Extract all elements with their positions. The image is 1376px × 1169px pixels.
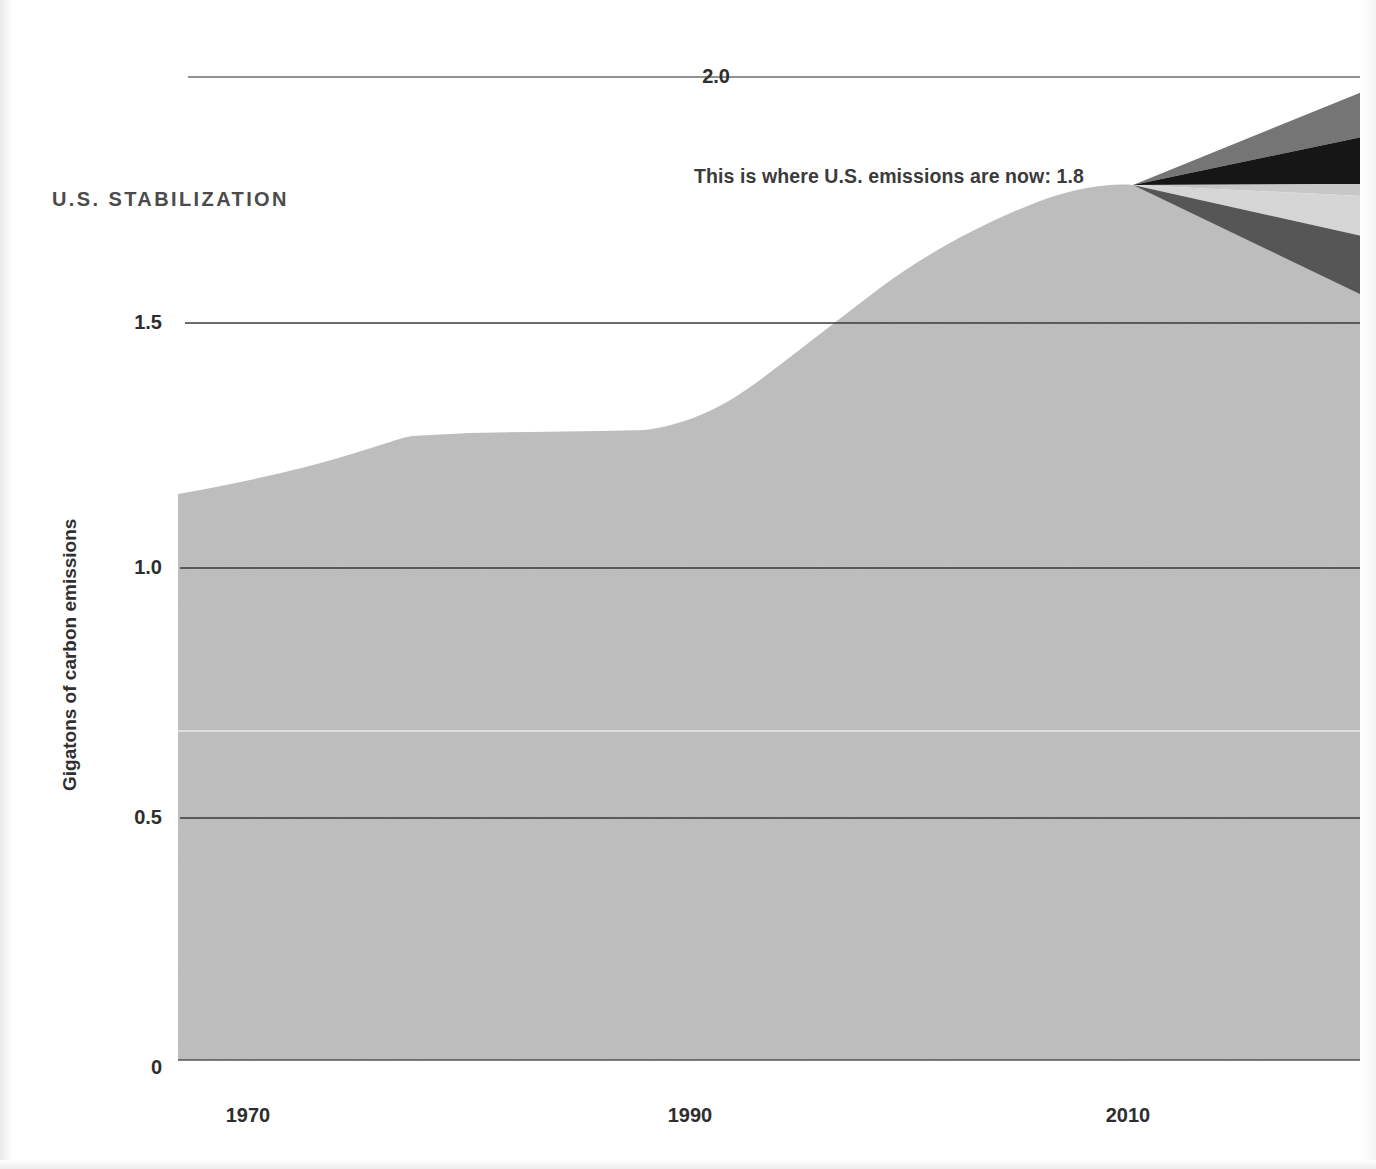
current-emissions-annotation: This is where U.S. emissions are now: 1.… [694, 165, 1084, 188]
area-historical-emissions [178, 185, 1362, 1060]
page-title: U.S. STABILIZATION [52, 188, 289, 211]
y-tick-2-0: 2.0 [620, 65, 730, 88]
x-tick-1990: 1990 [630, 1104, 750, 1127]
chart-canvas: U.S. STABILIZATION This is where U.S. em… [0, 0, 1376, 1169]
x-tick-2010: 2010 [1068, 1104, 1188, 1127]
emissions-area-chart [0, 0, 1376, 1169]
y-tick-1-0: 1.0 [72, 556, 162, 579]
y-tick-1-5: 1.5 [72, 311, 162, 334]
x-tick-1970: 1970 [188, 1104, 308, 1127]
y-tick-0-5: 0.5 [72, 806, 162, 829]
y-tick-0: 0 [72, 1056, 162, 1079]
